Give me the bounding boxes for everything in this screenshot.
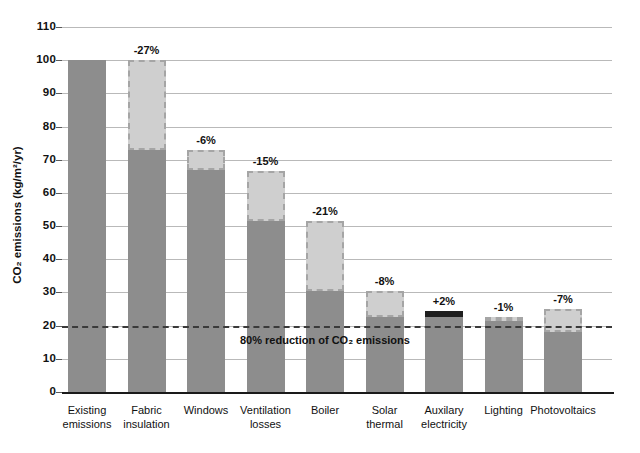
bar-ventilation-losses[interactable] — [247, 171, 285, 392]
bar-auxilary-electricity[interactable] — [425, 311, 463, 392]
bar-change-label: -6% — [166, 134, 246, 146]
bar-saving-segment — [128, 60, 166, 150]
bar-base-segment — [366, 317, 404, 392]
bar-change-label: -15% — [226, 155, 306, 167]
bar-lighting[interactable] — [485, 317, 523, 392]
bar-photovoltaics[interactable] — [544, 309, 582, 392]
bar-base-segment — [187, 170, 225, 392]
y-axis-tick-label: 10 — [10, 352, 56, 364]
y-axis-tick-mark — [56, 292, 62, 293]
y-axis-tick-mark — [56, 193, 62, 194]
y-axis-tick-label: 70 — [10, 153, 56, 165]
y-axis-tick-label: 100 — [10, 53, 56, 65]
y-axis-tick-mark — [56, 359, 62, 360]
reduction-target-label: 80% reduction of CO₂ emissions — [240, 334, 410, 346]
y-axis-tick-label: 20 — [10, 319, 56, 331]
bar-fabric-insulation[interactable] — [128, 60, 166, 392]
bar-boiler[interactable] — [306, 221, 344, 392]
y-axis-tick-mark — [56, 60, 62, 61]
bar-base-segment — [247, 221, 285, 392]
bar-change-label: -7% — [523, 293, 603, 305]
y-axis-tick-label: 30 — [10, 285, 56, 297]
y-axis-tick-mark — [56, 27, 62, 28]
bar-base-segment — [68, 60, 106, 392]
x-axis-line — [62, 392, 614, 394]
y-axis-tick-label: 50 — [10, 219, 56, 231]
bar-base-segment — [544, 332, 582, 392]
bar-saving-segment — [366, 291, 404, 318]
y-axis-tick-label: 80 — [10, 120, 56, 132]
y-axis-tick-label: 40 — [10, 252, 56, 264]
y-axis-tick-label: 90 — [10, 86, 56, 98]
bar-saving-segment — [187, 150, 225, 170]
bar-change-label: -21% — [285, 205, 365, 217]
y-axis-tick-label: 60 — [10, 186, 56, 198]
bar-saving-segment — [544, 309, 582, 332]
y-axis-tick-label: 110 — [10, 20, 56, 32]
bar-change-label: -8% — [345, 275, 425, 287]
y-axis-tick-mark — [56, 259, 62, 260]
plot-area: -27%-6%-15%-21%-8%+2%-1%-7%80% reduction… — [62, 20, 612, 398]
y-axis-tick-mark — [56, 392, 62, 393]
bar-increase-segment — [425, 311, 463, 318]
bar-windows[interactable] — [187, 150, 225, 392]
y-axis-tick-mark — [56, 127, 62, 128]
bar-existing-emissions[interactable] — [68, 60, 106, 392]
reduction-target-line — [62, 326, 612, 328]
bar-change-label: -27% — [107, 44, 187, 56]
bar-saving-segment — [306, 221, 344, 291]
x-axis-category-label: Photovoltaics — [524, 403, 602, 417]
bar-base-segment — [128, 150, 166, 392]
bar-base-segment — [485, 321, 523, 392]
bar-saving-segment — [247, 171, 285, 221]
y-axis-tick-label: 0 — [10, 385, 56, 397]
y-axis-tick-mark — [56, 93, 62, 94]
gridline — [62, 27, 612, 28]
y-axis-tick-mark — [56, 160, 62, 161]
co2-emissions-waterfall-chart: CO₂ emissions (kg/m²/yr) -27%-6%-15%-21%… — [0, 0, 640, 453]
y-axis-tick-mark — [56, 326, 62, 327]
y-axis-tick-mark — [56, 226, 62, 227]
bar-base-segment — [425, 317, 463, 392]
